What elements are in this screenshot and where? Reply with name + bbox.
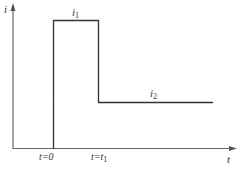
- i2-label: i2: [150, 88, 157, 101]
- tick-label-t0: t=0: [39, 152, 54, 162]
- current-waveform-diagram: [0, 0, 242, 173]
- tick-label-t1: t=t1: [91, 152, 107, 164]
- x-axis-label: t: [227, 154, 230, 165]
- y-axis-arrow-icon: [11, 3, 16, 11]
- x-axis-arrow-icon: [229, 146, 237, 151]
- y-axis-label: i: [4, 4, 7, 15]
- current-waveform: [54, 21, 214, 150]
- i1-label: i1: [72, 7, 79, 20]
